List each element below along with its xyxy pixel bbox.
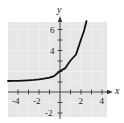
- y-tick-label-4: 4: [50, 46, 55, 56]
- x-tick-label-4: 4: [100, 96, 105, 106]
- x-axis-arrow-icon: [107, 90, 113, 94]
- x-tick-label-2: 2: [79, 96, 84, 106]
- y-axis-label: y: [56, 4, 62, 15]
- x-tick-label-minus-2: -2: [33, 96, 41, 106]
- exponential-graph: y x -4 -2 2 4 6 4 -2: [0, 0, 124, 123]
- y-axis-arrow-icon: [58, 16, 62, 22]
- y-tick-label-minus-2: -2: [45, 108, 53, 118]
- x-tick-label-minus-4: -4: [12, 96, 20, 106]
- y-tick-label-6: 6: [50, 25, 55, 35]
- x-axis-label: x: [114, 85, 120, 96]
